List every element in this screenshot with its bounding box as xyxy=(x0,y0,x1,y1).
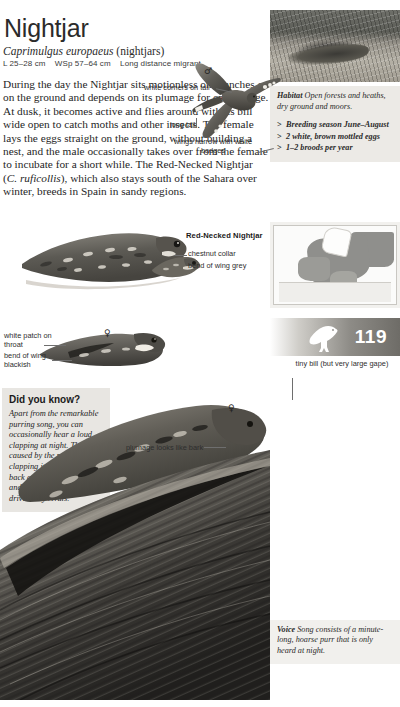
map-range-west xyxy=(298,257,330,280)
male-symbol: ♂ xyxy=(204,66,212,76)
annotation-wings-narrow: wings narrow with white badges xyxy=(166,138,260,156)
page-number-banner: 119 xyxy=(270,318,400,356)
map-north-africa xyxy=(279,282,391,302)
page-number: 119 xyxy=(355,326,387,348)
leader-line xyxy=(44,345,66,346)
leader-line xyxy=(196,118,197,128)
family-name: (nightjars) xyxy=(116,45,164,57)
leader-line xyxy=(292,378,293,400)
annotation-long-tail: long tail xyxy=(170,121,195,130)
leader-line xyxy=(204,447,226,448)
field-guide-page: Nightjar Caprimulgus europaeus (nightjar… xyxy=(0,0,400,707)
species-latin-name: Caprimulgus europaeus (nightjars) xyxy=(3,45,164,57)
europe-distribution-map xyxy=(270,222,400,308)
length-value: L 25–28 cm xyxy=(3,59,46,68)
annotation-bend-of-wing-grey: bend of wing grey xyxy=(188,262,246,271)
habitat-paragraph: Habitat Open forests and heaths, dry gro… xyxy=(277,91,394,112)
wingspan-value: WSp 57–64 cm xyxy=(55,59,111,68)
annotation-plumage-bark: plumage looks like bark xyxy=(126,444,203,453)
leader-line xyxy=(174,255,187,256)
nightjar-on-ground-photo xyxy=(270,10,400,82)
red-necked-latin: C. ruficollis xyxy=(7,172,61,184)
list-item: Breeding season June–August xyxy=(277,120,394,131)
breeding-facts-list: Breeding season June–August 2 white, bro… xyxy=(277,120,394,154)
annotation-chestnut-collar: chestnut collar xyxy=(188,250,236,259)
map-plate xyxy=(273,225,397,305)
red-necked-nightjar-label: Red-Necked Nightjar xyxy=(186,231,263,240)
voice-label: Voice xyxy=(277,625,295,634)
bird-silhouette-icon xyxy=(306,322,340,353)
latin-binomial: Caprimulgus europaeus xyxy=(3,45,113,57)
page-title: Nightjar xyxy=(4,16,89,41)
species-measurements: L 25–28 cm WSp 57–64 cm Long distance mi… xyxy=(3,59,208,68)
habitat-info-box: Habitat Open forests and heaths, dry gro… xyxy=(270,86,400,162)
annotation-white-corners: white corners on tail xyxy=(144,84,210,93)
female-symbol: ♀ xyxy=(104,328,111,338)
voice-info-box: Voice Song consists of a minute-long, ho… xyxy=(270,620,400,664)
annotation-tiny-bill: tiny bill (but very large gape) xyxy=(290,360,394,369)
list-item: 1–2 broods per year xyxy=(277,143,394,154)
annotation-white-patch: white patch on throat xyxy=(4,332,56,350)
list-item: 2 white, brown mottled eggs xyxy=(277,132,394,143)
female-symbol: ♀ xyxy=(228,403,235,413)
photo-grain-overlay xyxy=(270,10,400,82)
leader-line xyxy=(52,360,72,361)
